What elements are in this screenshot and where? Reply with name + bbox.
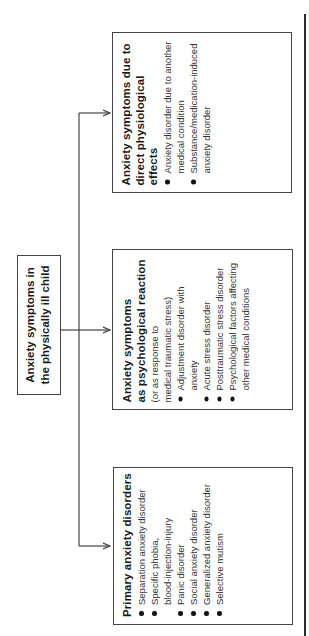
- list-item: Social anxiety disorder: [187, 473, 200, 617]
- branch-subtitle-line1: (or as response to: [147, 255, 160, 402]
- branch-title-line1: Primary anxiety disorders: [121, 473, 135, 617]
- branch-primary-anxiety-disorders: Primary anxiety disorders Separation anx…: [113, 467, 293, 625]
- branch-item-list: Anxiety disorder due to another medical …: [161, 38, 213, 185]
- list-item: Psychological factors affecting other me…: [225, 255, 251, 402]
- branch-title-line2: direct physiological effects: [134, 38, 161, 185]
- list-item: Substance/medication-induced anxiety dis…: [187, 38, 213, 185]
- list-item: Adjustment disorder with anxiety: [173, 255, 199, 402]
- branch-title-line2: as psychological reaction: [134, 255, 148, 402]
- list-item: Selective mutism: [213, 473, 226, 617]
- list-item: Specific phobia, blood-injection-injury: [148, 473, 174, 617]
- root-title-line2: the physically ill child: [38, 255, 53, 395]
- branch-subtitle-line2: medical traumatic stress): [160, 255, 173, 402]
- root-title-line1: Anxiety symptoms in: [23, 255, 38, 395]
- list-item: Generalized anxiety disorder: [200, 473, 213, 617]
- list-item: Anxiety disorder due to another medical …: [161, 38, 187, 185]
- branch-item-list: Separation anxiety disorder Specific pho…: [135, 473, 226, 617]
- root-node: Anxiety symptoms in the physically ill c…: [17, 255, 61, 395]
- branch-physiological-effects: Anxiety symptoms due to direct physiolog…: [112, 32, 292, 193]
- list-item: Panic disorder: [174, 473, 187, 617]
- branch-item-list: Adjustment disorder with anxiety Acute s…: [173, 255, 251, 402]
- branch-title-line1: Anxiety symptoms due to: [120, 38, 134, 185]
- list-item: Separation anxiety disorder: [135, 473, 148, 617]
- branch-title-line1: Anxiety symptoms: [120, 255, 134, 402]
- list-item: Acute stress disorder: [199, 255, 212, 402]
- list-item: Posttraumatic stress disorder: [212, 255, 225, 402]
- branch-psychological-reaction: Anxiety symptoms as psychological reacti…: [112, 249, 293, 410]
